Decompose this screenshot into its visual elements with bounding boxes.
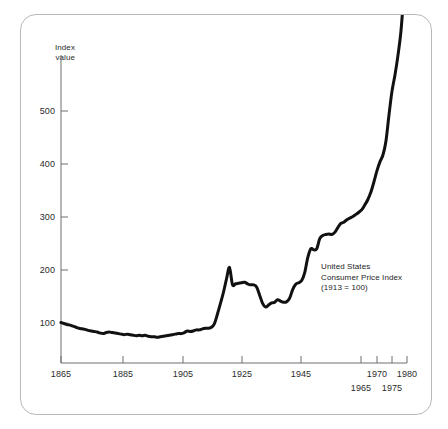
x-tick-label-1865: 1865	[41, 369, 81, 379]
y-tick-label-400: 400	[21, 159, 55, 169]
chart-frame: Index value 500 400 300 200	[20, 14, 432, 415]
y-tick-label-300: 300	[21, 212, 55, 222]
x-tick-label-1925: 1925	[222, 369, 262, 379]
annotation-line-2: Consumer Price Index	[321, 273, 402, 284]
chart-annotation: United States Consumer Price Index (1913…	[321, 262, 402, 294]
y-axis-ticks	[61, 111, 68, 323]
x-axis-ticks	[61, 356, 407, 363]
cpi-line-chart	[21, 15, 433, 416]
x-tick-label-1945: 1945	[281, 369, 321, 379]
y-tick-label-100: 100	[21, 318, 55, 328]
annotation-line-3: (1913 = 100)	[321, 283, 402, 294]
x-tick-label-1975: 1975	[372, 383, 412, 393]
y-tick-label-500: 500	[21, 106, 55, 116]
annotation-line-1: United States	[321, 262, 402, 273]
x-tick-label-1885: 1885	[103, 369, 143, 379]
x-tick-label-1980: 1980	[387, 369, 427, 379]
x-tick-label-1905: 1905	[163, 369, 203, 379]
axes-group	[61, 55, 407, 363]
y-tick-label-200: 200	[21, 265, 55, 275]
